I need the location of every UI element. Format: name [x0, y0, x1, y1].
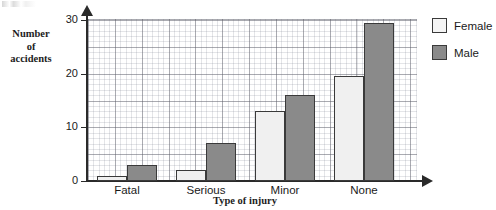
bar-fatal-male[interactable]: [127, 165, 157, 181]
bar-chart: Number of accidents 0102030 FatalSerious…: [0, 0, 496, 210]
y-axis-title: Number of accidents: [0, 28, 62, 66]
bar-minor-female[interactable]: [255, 111, 285, 181]
x-category-label-none: None: [320, 184, 408, 196]
x-axis-title: Type of injury: [170, 195, 320, 206]
legend-item-female[interactable]: Female: [432, 18, 492, 33]
y-axis-arrow-icon: [81, 5, 93, 16]
y-axis-title-line-3: accidents: [0, 53, 62, 66]
legend-label-female: Female: [454, 20, 492, 32]
y-tick-label-20: 20: [52, 67, 78, 79]
x-axis-arrow-icon: [422, 175, 433, 187]
y-tick-label-0: 0: [52, 174, 78, 186]
y-tick-label-30: 30: [52, 13, 78, 25]
bar-minor-male[interactable]: [285, 95, 315, 181]
y-axis-title-line-1: Number: [0, 28, 62, 41]
bar-serious-male[interactable]: [206, 143, 236, 181]
legend: Female Male: [432, 18, 492, 72]
legend-label-male: Male: [454, 47, 479, 59]
bar-none-female[interactable]: [334, 76, 364, 181]
legend-swatch-male-icon: [432, 45, 447, 60]
y-tick-mark-20: [81, 74, 88, 75]
bar-fatal-female[interactable]: [97, 176, 127, 181]
y-tick-mark-0: [81, 181, 88, 182]
legend-swatch-female-icon: [432, 18, 447, 33]
y-tick-mark-10: [81, 127, 88, 128]
x-category-label-fatal: Fatal: [83, 184, 171, 196]
y-tick-mark-30: [81, 20, 88, 21]
bar-serious-female[interactable]: [176, 170, 206, 181]
bar-none-male[interactable]: [364, 23, 394, 181]
y-axis-line: [86, 14, 88, 182]
legend-item-male[interactable]: Male: [432, 45, 492, 60]
y-axis-title-line-2: of: [0, 41, 62, 54]
y-tick-label-10: 10: [52, 120, 78, 132]
scan-artifact: [2, 1, 36, 7]
